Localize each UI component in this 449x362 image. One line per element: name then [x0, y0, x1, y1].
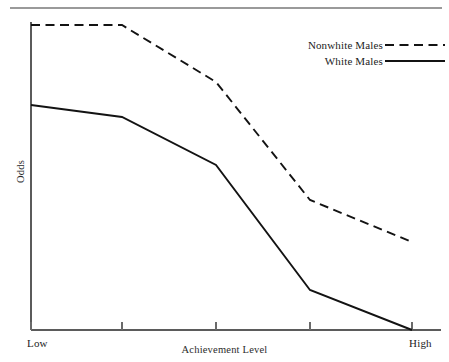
x-axis-label: Achievement Level	[0, 344, 449, 355]
legend-item-nonwhite-males: Nonwhite Males	[282, 37, 445, 53]
legend-swatch-solid-icon	[385, 56, 445, 66]
chart-legend: Nonwhite Males White Males	[282, 37, 445, 69]
legend-label-nonwhite-males: Nonwhite Males	[308, 39, 385, 51]
legend-label-white-males: White Males	[325, 55, 385, 67]
chart-figure: Odds Achievement Level Low High Nonwhite…	[0, 0, 449, 362]
x-axis-label-low: Low	[27, 337, 48, 349]
legend-swatch-dashed-icon	[385, 40, 445, 50]
legend-item-white-males: White Males	[282, 53, 445, 69]
y-axis-label: Odds	[15, 142, 26, 202]
x-axis-label-high: High	[409, 337, 432, 349]
